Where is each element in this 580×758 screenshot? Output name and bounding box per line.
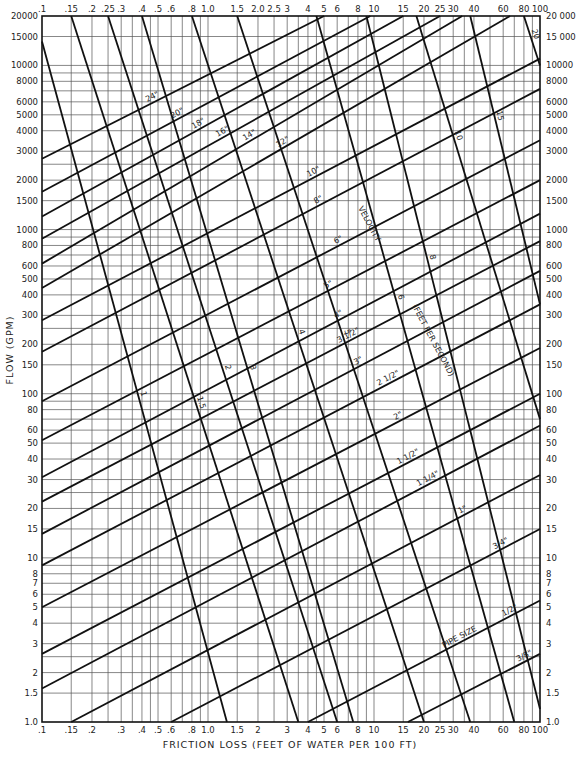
y-tick-label: 150 (546, 360, 562, 370)
y-tick-label: 1000 (546, 225, 568, 235)
y-tick-label: 3000 (16, 146, 38, 156)
pipe-size-lines (42, 16, 540, 722)
y-tick-label: 1500 (546, 196, 568, 206)
x-tick-label: .3 (117, 4, 125, 14)
y-tick-label: 2 (546, 668, 551, 678)
y-tick-label: 4000 (16, 126, 38, 136)
x-tick-label: 20 (419, 4, 430, 14)
velocity-label: 8 (428, 254, 438, 261)
x-tick-label: 60 (498, 4, 509, 14)
y-tick-label: 2 (33, 668, 38, 678)
friction-loss-chart: .1.15.2.25.3.4.5.6.81.01.52.02.534568101… (0, 0, 580, 758)
x-tick-label: 3 (284, 725, 289, 735)
y-tick-label: 4 (546, 618, 551, 628)
y-tick-label: 15 (27, 524, 38, 534)
x-tick-label: .15 (64, 725, 78, 735)
x-tick-label: 40 (469, 725, 480, 735)
y-tick-label: 200 (22, 339, 38, 349)
y-tick-label: 5 (546, 602, 551, 612)
x-tick-label: 20 (419, 725, 430, 735)
x-tick-label: .2 (88, 4, 96, 14)
x-tick-label: 2.5 (267, 4, 281, 14)
x-tick-label: 15 (398, 725, 409, 735)
x-tick-label: 30 (448, 725, 459, 735)
pipe-size-line (42, 214, 540, 478)
x-tick-label: .6 (167, 725, 175, 735)
y-tick-label: 30 (546, 475, 557, 485)
y-tick-label: 7 (33, 578, 38, 588)
x-tick-label: 8 (355, 4, 360, 14)
x-tick-label: 6 (334, 4, 339, 14)
x-tick-label: .6 (167, 4, 175, 14)
x-tick-label: .8 (188, 4, 196, 14)
y-tick-label: 600 (546, 261, 562, 271)
x-tick-label: 25 (435, 725, 446, 735)
x-tick-label: 4 (305, 725, 310, 735)
x-tick-label: 5 (321, 725, 326, 735)
y-tick-label: 80 (546, 405, 557, 415)
y-axis-title: FLOW (GPM) (4, 315, 15, 384)
y-tick-label: 40 (546, 454, 557, 464)
x-axis-bottom-ticks: .1.15.2.3.4.5.6.81.01.523456810152025304… (38, 725, 548, 735)
x-tick-label: .8 (188, 725, 196, 735)
y-tick-label: 60 (546, 425, 557, 435)
y-tick-label: 15 000 (546, 32, 576, 42)
y-axis-right-ticks: 1.01.52345678101520304050608010015020030… (546, 11, 576, 727)
y-tick-label: 8 (33, 569, 38, 579)
y-tick-label: 6000 (16, 97, 38, 107)
y-tick-label: 8000 (16, 76, 38, 86)
pipe-size-line (42, 16, 370, 192)
x-tick-label: 40 (469, 4, 480, 14)
velocity-line (42, 41, 227, 722)
y-tick-label: 8000 (546, 76, 568, 86)
pipe-size-label: 18" (190, 116, 206, 131)
x-tick-label: .1 (38, 725, 46, 735)
x-tick-label: 15 (398, 4, 409, 14)
velocity-label: 3 (248, 364, 258, 371)
x-tick-label: .25 (101, 4, 115, 14)
y-tick-label: 150 (22, 360, 38, 370)
y-tick-label: 6 (33, 589, 38, 599)
x-tick-label: 2.0 (251, 4, 265, 14)
y-tick-label: 3 (33, 639, 38, 649)
y-tick-label: 2000 (546, 175, 568, 185)
velocity-label: 6 (396, 293, 406, 300)
x-tick-label: .4 (138, 4, 146, 14)
velocity-line (108, 16, 337, 722)
pipe-size-line (71, 475, 540, 722)
y-tick-label: 1000 (16, 225, 38, 235)
y-tick-label: 80 (27, 405, 38, 415)
y-tick-label: 100 (22, 389, 38, 399)
y-tick-label: 400 (22, 290, 38, 300)
y-tick-label: 600 (22, 261, 38, 271)
y-tick-label: 3000 (546, 146, 568, 156)
x-tick-label: .3 (117, 725, 125, 735)
velocity-label: 1 (138, 390, 148, 397)
y-tick-label: 5000 (16, 110, 38, 120)
y-tick-label: 20 (546, 503, 557, 513)
velocity-line (316, 16, 514, 722)
y-tick-label: 2000 (16, 175, 38, 185)
x-tick-label: .5 (154, 725, 162, 735)
velocity-line (142, 16, 353, 722)
pipe-size-line (42, 16, 440, 239)
velocity-line (524, 16, 540, 65)
y-tick-label: 40 (27, 454, 38, 464)
x-tick-label: 80 (518, 725, 529, 735)
x-tick-label: 1.5 (230, 725, 244, 735)
x-tick-label: 25 (435, 4, 446, 14)
x-tick-label: 10 (369, 4, 380, 14)
y-tick-label: 3 (546, 639, 551, 649)
y-axis-left-ticks: 1.01.52345678101520304050608010015020030… (11, 11, 38, 727)
x-tick-label: 3 (284, 4, 289, 14)
y-tick-label: 15 (546, 524, 557, 534)
y-tick-label: 4 (33, 618, 38, 628)
y-tick-label: 1.0 (546, 717, 560, 727)
x-tick-label: 10 (369, 725, 380, 735)
y-tick-label: 20000 (11, 11, 38, 21)
pipe-size-line (42, 394, 540, 654)
y-tick-label: 500 (546, 274, 562, 284)
y-tick-label: 10000 (546, 60, 573, 70)
y-tick-label: 500 (22, 274, 38, 284)
y-tick-label: 50 (546, 438, 557, 448)
